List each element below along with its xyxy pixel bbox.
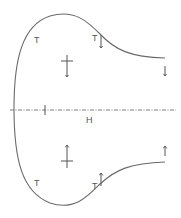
t-label-upper-mid: T [92, 33, 98, 43]
arrow-down-crossbar-icon [61, 55, 73, 77]
t-label-lower-mid: T [92, 181, 98, 191]
centerline-label: H [86, 115, 93, 125]
t-label-upper-left: T [34, 35, 40, 45]
t-label-lower-left: T [34, 178, 40, 188]
upper-wall-curve [14, 14, 165, 108]
nozzle-diagram: T T H T T [0, 0, 181, 218]
arrow-up-crossbar-icon [61, 145, 73, 168]
